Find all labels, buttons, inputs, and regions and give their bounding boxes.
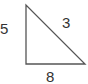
hypotenuse-label: 3 xyxy=(62,14,70,31)
left-side-label: 5 xyxy=(0,20,8,37)
triangle-diagram: 5 3 8 xyxy=(0,0,88,84)
right-triangle xyxy=(26,5,85,64)
base-label: 8 xyxy=(46,68,54,84)
